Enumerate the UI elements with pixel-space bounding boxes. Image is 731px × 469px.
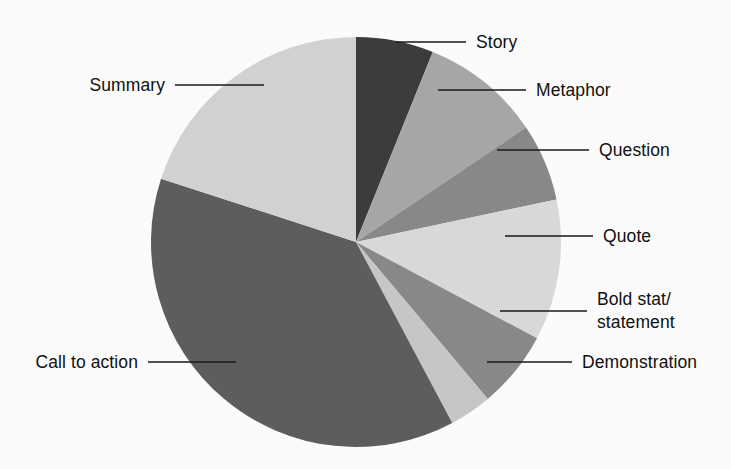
slice-label-demonstration: Demonstration <box>582 352 697 372</box>
slice-label-line1-quote: Quote <box>603 226 651 246</box>
slice-label-line1-summary: Summary <box>89 75 165 95</box>
pie-chart-canvas: StoryMetaphorQuestionQuoteBold stat/stat… <box>0 0 731 469</box>
slice-label-quote: Quote <box>603 226 651 246</box>
slice-label-line1-question: Question <box>599 140 670 160</box>
slice-label-line1-call-to-action: Call to action <box>35 352 138 372</box>
slice-label-call-to-action: Call to action <box>35 352 138 372</box>
slice-label-story: Story <box>476 32 517 52</box>
slice-label-question: Question <box>599 140 670 160</box>
slice-label-line1-demonstration: Demonstration <box>582 352 697 372</box>
slice-label-line1-metaphor: Metaphor <box>536 80 611 100</box>
slice-label-line1-bold-stat-statement: Bold stat/ <box>597 289 671 309</box>
slice-label-metaphor: Metaphor <box>536 80 611 100</box>
slice-label-bold-stat-statement: Bold stat/statement <box>597 289 675 332</box>
slice-label-line2-bold-stat-statement: statement <box>597 312 675 332</box>
pie-slices-group <box>151 37 561 447</box>
slice-label-line1-story: Story <box>476 32 517 52</box>
slice-label-summary: Summary <box>89 75 165 95</box>
pie-chart-figure: StoryMetaphorQuestionQuoteBold stat/stat… <box>0 0 731 469</box>
